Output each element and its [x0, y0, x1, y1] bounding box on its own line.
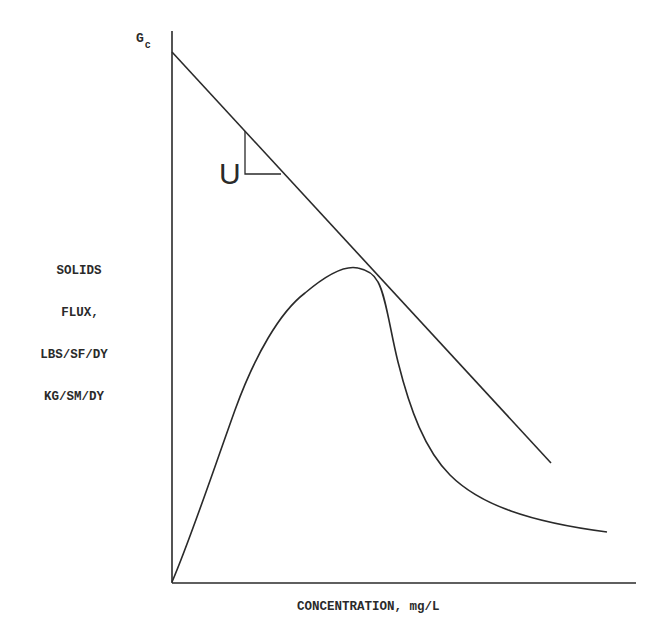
y-axis-label-line-3: LBS/SF/DY: [4, 348, 144, 362]
y-axis-label-line-2: FLUX,: [16, 306, 144, 320]
gc-intercept-label: Gc: [136, 32, 151, 51]
slope-u-label: U: [219, 158, 241, 190]
tangent-line: [172, 52, 551, 463]
solids-flux-curve: [172, 268, 607, 582]
y-axis-label-line-1: SOLIDS: [14, 264, 144, 278]
gc-subscript: c: [145, 40, 151, 51]
y-axis-label: SOLIDS FLUX, LBS/SF/DY KG/SM/DY: [4, 236, 144, 418]
x-axis-label: CONCENTRATION, mg/L: [297, 600, 440, 614]
gc-main: G: [136, 31, 144, 46]
y-axis-label-line-4: KG/SM/DY: [4, 390, 144, 404]
